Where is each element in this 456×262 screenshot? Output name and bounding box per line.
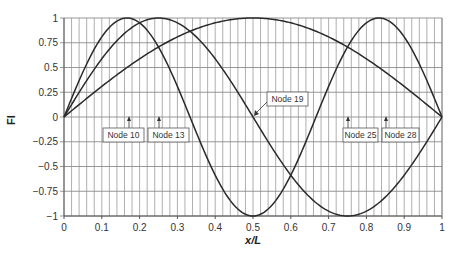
svg-text:0: 0 [61, 222, 67, 233]
x-axis-ticks: 00.10.20.30.40.50.60.70.80.91 [61, 222, 445, 233]
svg-text:−1: −1 [47, 211, 59, 222]
svg-text:1: 1 [439, 222, 445, 233]
svg-text:0.5: 0.5 [44, 62, 58, 73]
svg-text:0.5: 0.5 [246, 222, 260, 233]
annotation-node-19: Node 19 [254, 92, 308, 116]
svg-text:0.3: 0.3 [170, 222, 184, 233]
mode-shape-chart: 10.750.50.250−0.25−0.5−0.75−1 00.10.20.3… [0, 0, 456, 262]
svg-text:Node 10: Node 10 [107, 130, 139, 140]
svg-text:0.75: 0.75 [39, 37, 59, 48]
svg-text:1: 1 [52, 13, 58, 24]
svg-text:0.25: 0.25 [39, 87, 59, 98]
svg-text:Node 19: Node 19 [271, 94, 303, 104]
annotation-node-28: Node 28 [382, 116, 419, 142]
svg-text:−0.5: −0.5 [38, 161, 58, 172]
svg-text:Node 28: Node 28 [384, 130, 416, 140]
svg-text:0: 0 [52, 112, 58, 123]
svg-text:Node 25: Node 25 [344, 130, 376, 140]
svg-text:−0.25: −0.25 [33, 136, 59, 147]
svg-text:0.6: 0.6 [284, 222, 298, 233]
grid [60, 18, 442, 219]
svg-text:−0.75: −0.75 [33, 186, 59, 197]
svg-text:Node 13: Node 13 [152, 130, 184, 140]
svg-text:0.8: 0.8 [359, 222, 373, 233]
svg-text:0.7: 0.7 [322, 222, 336, 233]
svg-text:0.2: 0.2 [133, 222, 147, 233]
svg-text:0.1: 0.1 [95, 222, 109, 233]
annotation-node-25: Node 25 [343, 116, 378, 142]
y-axis-title: FI [5, 115, 17, 125]
x-axis-title: x/L [244, 234, 261, 246]
annotation-node-13: Node 13 [148, 116, 189, 142]
y-axis-ticks: 10.750.50.250−0.25−0.5−0.75−1 [33, 13, 59, 222]
svg-text:0.9: 0.9 [397, 222, 411, 233]
svg-text:0.4: 0.4 [208, 222, 222, 233]
